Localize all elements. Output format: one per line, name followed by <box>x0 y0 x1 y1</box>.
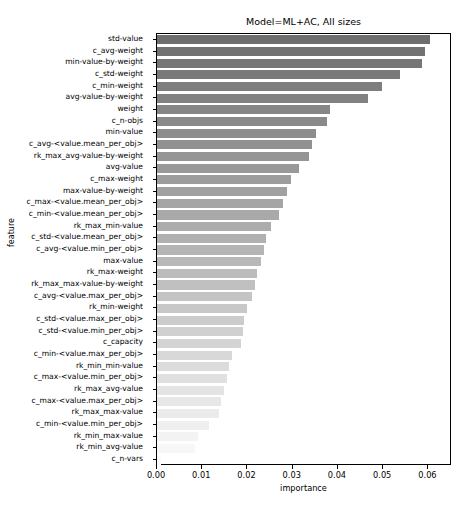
bar <box>157 351 232 360</box>
bar-row <box>157 175 450 184</box>
y-tick-label: c_min-weight <box>92 82 143 90</box>
y-tick-label: rk_max_min-value <box>74 222 143 230</box>
bar-row <box>157 421 450 430</box>
bar-row <box>157 397 450 406</box>
bar <box>157 444 195 453</box>
y-tick-label: rk_max_avg-value <box>74 385 143 393</box>
y-tick-label: c_max-<value.max_per_obj> <box>32 397 143 405</box>
bar <box>157 432 198 441</box>
bar-row <box>157 210 450 219</box>
x-tick-mark <box>156 465 157 469</box>
y-tick-label: max-value <box>103 257 143 265</box>
bar <box>157 94 368 103</box>
x-tick-label: 0.02 <box>224 470 268 480</box>
chart-title: Model=ML+AC, All sizes <box>156 16 451 27</box>
y-tick-label: c_std-weight <box>95 70 143 78</box>
y-tick-label: c_max-<value.min_per_obj> <box>34 374 143 382</box>
x-tick-mark <box>246 465 247 469</box>
y-tick-label: c_avg-<value.max_per_obj> <box>34 292 143 300</box>
bar <box>157 70 400 79</box>
bar <box>157 362 229 371</box>
x-axis-title: importance <box>156 483 451 493</box>
y-tick-label: avg-value <box>106 163 143 171</box>
bar <box>157 292 252 301</box>
bar-row <box>157 409 450 418</box>
bar-row <box>157 164 450 173</box>
bar-row <box>157 129 450 138</box>
bar <box>157 397 221 406</box>
bar-row <box>157 292 450 301</box>
bar <box>157 222 271 231</box>
bar-row <box>157 257 450 266</box>
bar-row <box>157 234 450 243</box>
y-tick-label: rk_max_max-value-by-weight <box>31 280 143 288</box>
bar-row <box>157 374 450 383</box>
bar <box>157 187 287 196</box>
bar-row <box>157 59 450 68</box>
bar <box>157 140 312 149</box>
bar <box>157 234 266 243</box>
bar-row <box>157 152 450 161</box>
x-tick-label: 0.04 <box>315 470 359 480</box>
y-tick-label: c_min-<value.max_per_obj> <box>34 350 143 358</box>
y-tick-label: rk_max_avg-value-by-weight <box>34 152 143 160</box>
y-tick-label: c_max-<value.mean_per_obj> <box>27 199 143 207</box>
y-tick-label: c_capacity <box>103 339 143 347</box>
x-tick-mark <box>427 465 428 469</box>
bar <box>157 409 219 418</box>
bar <box>157 59 422 68</box>
y-tick-label: avg-value-by-weight <box>65 93 143 101</box>
bar <box>157 47 425 56</box>
bar <box>157 199 283 208</box>
bar-row <box>157 339 450 348</box>
x-tick-mark <box>337 465 338 469</box>
y-tick-label: rk_max_max-value <box>72 409 143 417</box>
bar-row <box>157 35 450 44</box>
y-tick-label: weight <box>117 105 143 113</box>
bar-row <box>157 187 450 196</box>
bar-row <box>157 444 450 453</box>
bar <box>157 82 382 91</box>
y-tick-label: c_n-objs <box>112 117 143 125</box>
bar-row <box>157 269 450 278</box>
y-tick-label: c_avg-weight <box>93 47 143 55</box>
y-tick-label: c_n-vars <box>111 455 143 463</box>
y-tick-label: max-value-by-weight <box>63 187 143 195</box>
x-tick-label: 0.06 <box>405 470 449 480</box>
x-tick-mark <box>382 465 383 469</box>
bar <box>157 257 261 266</box>
bar <box>157 304 247 313</box>
y-tick-label: std-value <box>108 35 143 43</box>
bar <box>157 280 255 289</box>
plot-area <box>156 33 451 465</box>
bar <box>157 117 327 126</box>
bar <box>157 316 244 325</box>
bar-chart-figure: Model=ML+AC, All sizes std-valuec_avg-we… <box>0 0 474 508</box>
bar-row <box>157 386 450 395</box>
bar-row <box>157 362 450 371</box>
y-axis-title: feature <box>7 203 16 263</box>
bars-layer <box>157 34 450 464</box>
bar-row <box>157 245 450 254</box>
y-tick-label: rk_min_avg-value <box>76 444 143 452</box>
bar <box>157 386 224 395</box>
x-tick-label: 0.03 <box>270 470 314 480</box>
y-tick-label: min-value-by-weight <box>65 58 143 66</box>
x-tick-label: 0.00 <box>134 470 178 480</box>
bar-row <box>157 82 450 91</box>
bar-row <box>157 117 450 126</box>
x-tick-mark <box>201 465 202 469</box>
y-tick-label: c_min-<value.mean_per_obj> <box>29 210 143 218</box>
bar-row <box>157 70 450 79</box>
bar <box>157 129 316 138</box>
y-axis-tick-labels: std-valuec_avg-weightmin-value-by-weight… <box>0 33 150 465</box>
bar-row <box>157 140 450 149</box>
bar-row <box>157 351 450 360</box>
y-tick-label: rk_min-weight <box>89 304 143 312</box>
y-tick-label: c_avg-<value.mean_per_obj> <box>29 140 143 148</box>
bar <box>157 105 330 114</box>
bar <box>157 421 209 430</box>
bar-row <box>157 316 450 325</box>
bar-row <box>157 432 450 441</box>
y-tick-label: c_avg-<value.min_per_obj> <box>36 245 143 253</box>
